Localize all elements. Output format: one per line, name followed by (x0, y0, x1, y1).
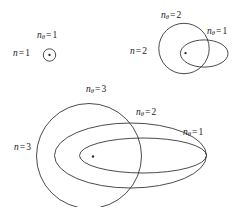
nucleus-dot-n2 (184, 52, 186, 54)
label-n2-ntheta1-eq: = (215, 26, 222, 36)
label-orbit-n3-ntheta2: nθ=2 (136, 108, 156, 118)
label-n1-value: 1 (25, 48, 30, 58)
label-orbit-n3-ntheta1: nθ=1 (183, 128, 203, 138)
label-n1-ntheta-eq: = (45, 30, 52, 40)
label-n3-ntheta3-value: 3 (102, 84, 107, 94)
orbit-n3-ntheta1 (80, 138, 207, 173)
label-n3-ntheta2-eq: = (144, 107, 151, 117)
label-orbit-n2-ntheta2: nθ=2 (161, 11, 181, 21)
label-orbit-n1-ntheta1: nθ=1 (37, 31, 57, 41)
label-n2-ntheta2-eq: = (169, 10, 176, 20)
label-n3-ntheta1-eq: = (191, 127, 198, 137)
nucleus-dot-n1 (48, 54, 50, 56)
label-orbit-n3-ntheta3: nθ=3 (86, 85, 106, 95)
label-shell-n2: n=2 (130, 47, 147, 57)
label-n3-ntheta2-value: 2 (152, 107, 157, 117)
label-n2-ntheta2-value: 2 (177, 10, 182, 20)
orbit-diagram: n=1 nθ=1 n=2 nθ=2 nθ=1 n=3 nθ=3 nθ=2 nθ=… (0, 0, 249, 207)
label-n1-ntheta-value: 1 (53, 30, 58, 40)
nucleus-dot-n3 (92, 155, 94, 157)
label-n3-value: 3 (26, 142, 31, 152)
orbit-n3-ntheta3 (37, 104, 142, 208)
label-n2-ntheta1-value: 1 (223, 26, 228, 36)
shell-group-n3 (37, 104, 207, 208)
label-shell-n3-placeholder-n1: n=1 (13, 49, 30, 59)
label-orbit-n2-ntheta1: nθ=1 (207, 27, 227, 37)
label-shell-n3: n=3 (14, 143, 31, 153)
shell-group-n1 (43, 49, 55, 61)
orbit-n2-ntheta2 (159, 23, 209, 73)
label-n2-value: 2 (142, 46, 147, 56)
label-n3-ntheta1-value: 1 (199, 127, 204, 137)
label-n3-ntheta3-eq: = (94, 84, 101, 94)
